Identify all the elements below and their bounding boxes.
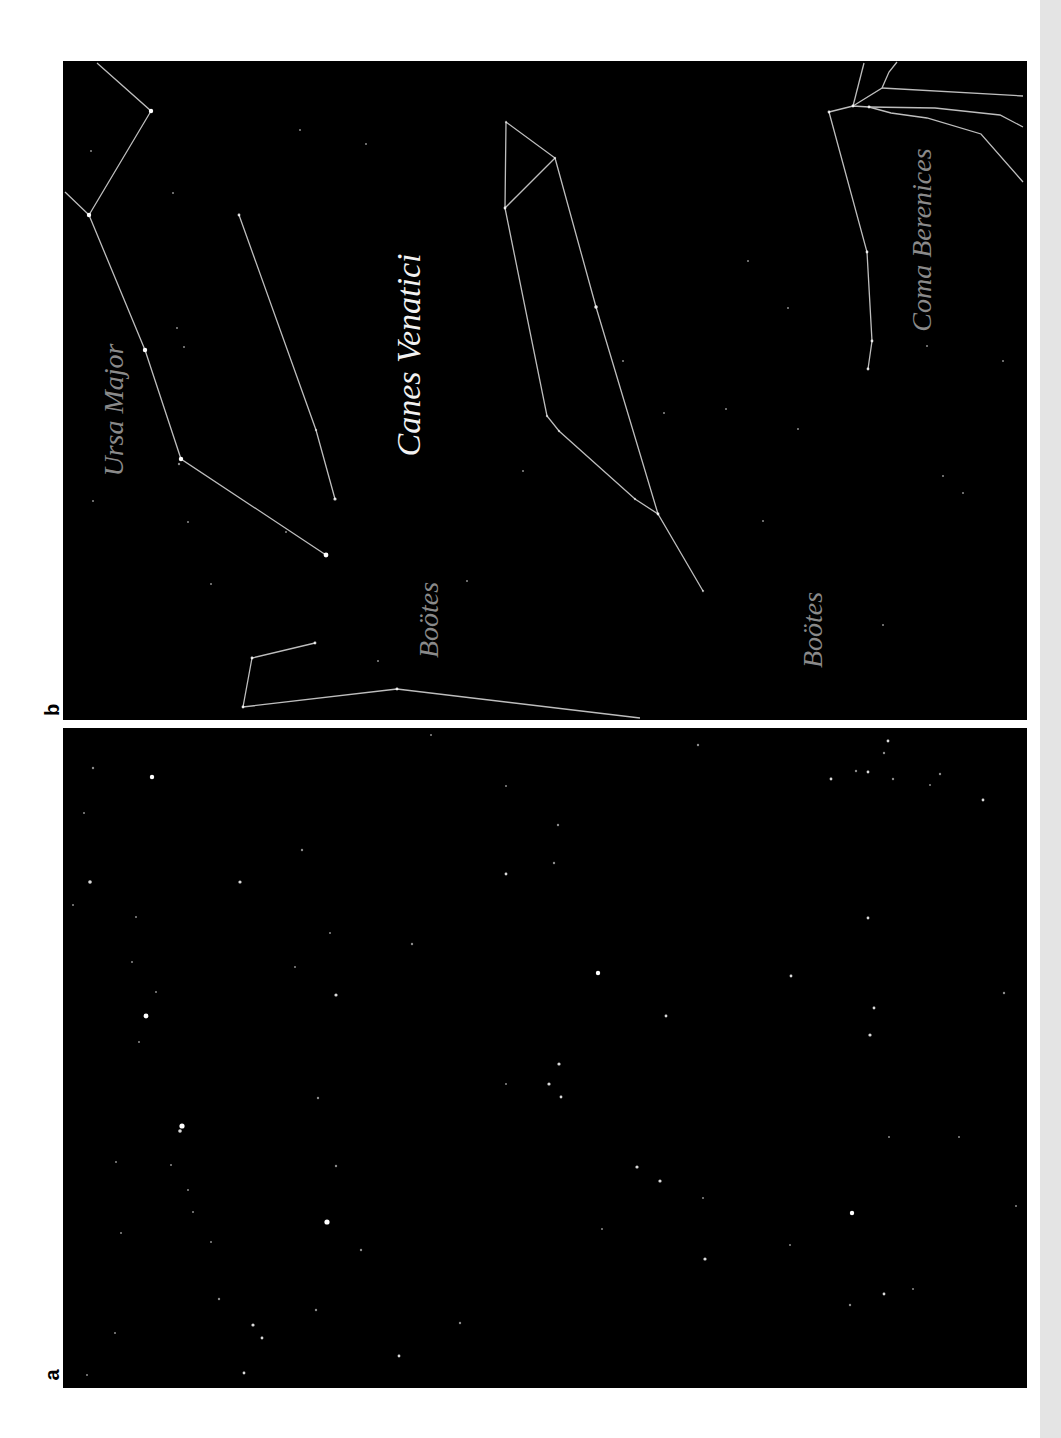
star <box>396 688 399 691</box>
star <box>849 1304 851 1306</box>
star <box>702 1197 704 1199</box>
star <box>172 192 174 194</box>
star <box>294 966 296 968</box>
star <box>466 580 468 582</box>
star <box>867 917 870 920</box>
constellation-line-coma-berenices <box>853 62 897 106</box>
star <box>635 1165 638 1168</box>
star <box>855 770 857 772</box>
constellation-line-coma-berenices <box>869 107 1023 182</box>
star <box>852 105 855 108</box>
star <box>873 1007 876 1010</box>
constellation-line-coma-berenices <box>829 112 872 369</box>
star <box>594 305 598 309</box>
star <box>187 521 189 523</box>
star <box>962 492 964 494</box>
star-field-panel-a <box>63 728 1027 1388</box>
star <box>1003 992 1005 994</box>
star <box>187 1189 189 1191</box>
star <box>72 904 74 906</box>
star <box>150 775 154 779</box>
star <box>459 1322 461 1324</box>
star <box>797 428 799 430</box>
star-chart-panel-b: Ursa MajorCanes VenaticiBoötesBoötesComa… <box>63 61 1027 720</box>
star <box>86 1374 88 1376</box>
star <box>1002 360 1004 362</box>
star <box>329 932 331 934</box>
star <box>828 111 831 114</box>
star <box>1015 1205 1017 1207</box>
star <box>179 1123 184 1128</box>
star <box>958 1136 960 1138</box>
star <box>871 340 874 343</box>
star <box>120 1232 122 1234</box>
star <box>251 1323 254 1326</box>
star <box>334 993 337 996</box>
star <box>243 1372 246 1375</box>
constellation-map: Ursa MajorCanes VenaticiBoötesBoötesComa… <box>63 61 1027 720</box>
star <box>887 740 890 743</box>
star <box>285 531 287 533</box>
star <box>787 307 789 309</box>
star <box>942 475 944 477</box>
constellation-name-label: Canes Venatici <box>390 253 427 456</box>
constellation-line-ursa-major-bear <box>239 215 335 499</box>
star <box>155 991 157 993</box>
star <box>315 1309 317 1311</box>
star <box>365 143 367 145</box>
star <box>883 752 885 754</box>
star <box>324 1219 329 1224</box>
star <box>315 429 317 431</box>
star <box>663 412 665 414</box>
star <box>554 157 556 159</box>
star-field-photo <box>63 728 1027 1388</box>
star <box>560 1096 563 1099</box>
star <box>138 1041 140 1043</box>
star <box>192 1211 194 1213</box>
star <box>522 470 524 472</box>
star <box>178 1129 182 1133</box>
panel-label-b: b <box>40 698 64 722</box>
star <box>867 368 870 371</box>
star <box>238 214 241 217</box>
star <box>504 207 507 210</box>
star <box>546 415 548 417</box>
star <box>114 1332 116 1334</box>
star <box>982 799 985 802</box>
star <box>557 824 559 826</box>
star <box>762 520 764 522</box>
star <box>505 121 507 123</box>
star <box>210 583 212 585</box>
star <box>912 1288 914 1290</box>
star <box>238 880 241 883</box>
star <box>324 553 329 558</box>
constellation-name-label: Ursa Major <box>98 343 129 476</box>
star <box>926 345 928 347</box>
star <box>830 778 833 781</box>
star <box>179 457 183 461</box>
star <box>92 767 94 769</box>
constellation-line-canes-venatici <box>505 122 555 208</box>
star <box>183 346 185 348</box>
star <box>929 784 931 786</box>
star <box>747 260 749 262</box>
star <box>251 657 254 660</box>
star <box>888 1136 890 1138</box>
star <box>558 430 560 432</box>
star <box>131 961 133 963</box>
star <box>868 106 871 109</box>
star <box>596 971 600 975</box>
star <box>135 916 137 918</box>
star <box>314 642 317 645</box>
star <box>144 1014 149 1019</box>
star <box>557 1062 560 1065</box>
star <box>335 1165 337 1167</box>
star <box>170 1164 172 1166</box>
star <box>333 497 336 500</box>
star <box>218 1298 220 1300</box>
star <box>702 590 704 592</box>
star <box>398 1355 401 1358</box>
star <box>850 1211 854 1215</box>
star <box>505 873 508 876</box>
star <box>301 849 303 851</box>
